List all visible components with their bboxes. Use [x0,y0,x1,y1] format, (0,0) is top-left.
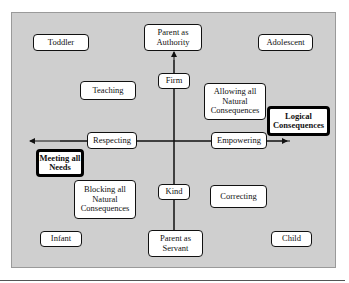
teaching-node: Teaching [80,81,136,100]
adolescent-node: Adolescent [258,34,313,51]
firm-node: Firm [158,73,190,89]
child-node: Child [271,231,312,247]
infant-node: Infant [40,231,82,247]
kind-node: Kind [158,184,190,200]
meeting-all-needs-node: Meeting all Needs [36,149,84,177]
blocking-natural-consequences-node: Blocking all Natural Consequences [74,180,136,219]
parent-as-authority-node: Parent as Authority [144,24,202,51]
correcting-node: Correcting [210,185,267,208]
allowing-natural-consequences-node: Allowing all Natural Consequences [204,83,266,120]
toddler-node: Toddler [33,34,89,51]
parent-as-servant-node: Parent as Servant [148,230,203,257]
respecting-node: Respecting [87,132,137,149]
bottom-rule [0,280,345,281]
logical-consequences-node: Logical Consequences [267,106,330,136]
empowering-node: Empowering [211,132,267,149]
